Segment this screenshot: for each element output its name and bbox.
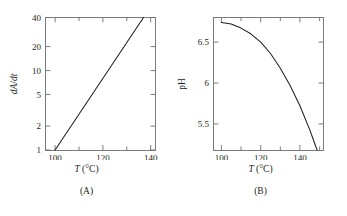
svg-text:100: 100 bbox=[48, 153, 62, 160]
y-axis-title-b-text: pH bbox=[177, 78, 187, 90]
svg-text:140: 140 bbox=[293, 153, 307, 160]
svg-text:10: 10 bbox=[32, 66, 42, 76]
data-curve-b bbox=[221, 22, 317, 150]
x-axis-label-b: T (°C) bbox=[174, 164, 347, 174]
svg-text:5: 5 bbox=[37, 90, 42, 100]
svg-text:5.5: 5.5 bbox=[198, 119, 210, 129]
svg-text:120: 120 bbox=[96, 153, 110, 160]
x-ticks-a bbox=[55, 18, 151, 151]
chart-b: pH 6.5 6 5.5 bbox=[174, 0, 347, 160]
y-axis-title-a: dA/dt bbox=[9, 73, 19, 94]
two-panel-figure: dA/dt 1 2 bbox=[0, 0, 347, 216]
x-tick-labels-a: 100 120 140 bbox=[48, 153, 158, 160]
plot-frame-b bbox=[214, 18, 324, 151]
svg-text:120: 120 bbox=[254, 153, 268, 160]
x-ticks-b bbox=[221, 18, 319, 151]
panel-a: dA/dt 1 2 bbox=[0, 0, 173, 216]
plot-frame-a bbox=[46, 18, 156, 151]
y-tick-labels-b: 6.5 6 5.5 bbox=[198, 37, 210, 129]
svg-text:140: 140 bbox=[144, 153, 158, 160]
svg-text:100: 100 bbox=[215, 153, 229, 160]
y-axis-title-b: pH bbox=[177, 78, 187, 90]
svg-text:6: 6 bbox=[205, 78, 210, 88]
svg-text:40: 40 bbox=[32, 13, 42, 23]
panel-caption-b: (B) bbox=[174, 186, 347, 196]
y-ticks-a bbox=[46, 18, 156, 151]
svg-text:20: 20 bbox=[32, 42, 42, 52]
panel-b: pH 6.5 6 5.5 bbox=[174, 0, 347, 216]
x-axis-label-a: T (°C) bbox=[0, 164, 173, 174]
x-tick-labels-b: 100 120 140 bbox=[215, 153, 308, 160]
data-line-a bbox=[55, 18, 143, 151]
svg-text:6.5: 6.5 bbox=[198, 37, 210, 47]
y-tick-labels-a: 1 2 5 10 20 40 bbox=[32, 13, 42, 156]
svg-text:1: 1 bbox=[37, 145, 42, 155]
panel-caption-a: (A) bbox=[0, 186, 173, 196]
svg-text:dA/dt: dA/dt bbox=[9, 73, 19, 94]
chart-a: dA/dt 1 2 bbox=[0, 0, 173, 160]
y-ticks-b bbox=[214, 42, 324, 124]
svg-text:2: 2 bbox=[37, 121, 42, 131]
